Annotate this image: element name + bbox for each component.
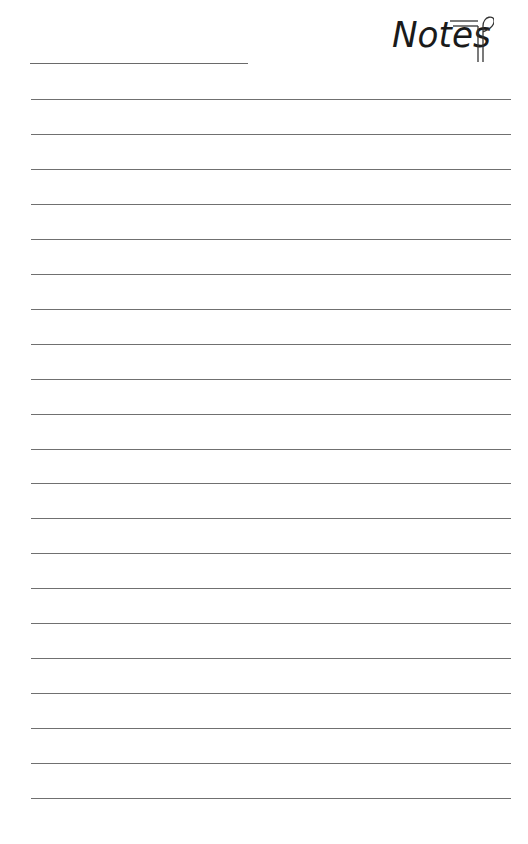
writing-line[interactable]: [31, 204, 511, 205]
writing-line[interactable]: [31, 449, 511, 450]
writing-line[interactable]: [31, 414, 511, 415]
writing-line[interactable]: [31, 309, 511, 310]
name-underline[interactable]: [30, 63, 248, 64]
writing-line[interactable]: [31, 728, 511, 729]
writing-line[interactable]: [31, 518, 511, 519]
writing-line[interactable]: [31, 693, 511, 694]
paragraph-mark-icon: [448, 12, 494, 66]
writing-line[interactable]: [31, 553, 511, 554]
writing-line[interactable]: [31, 99, 511, 100]
writing-line[interactable]: [31, 134, 511, 135]
writing-line[interactable]: [31, 169, 511, 170]
writing-line[interactable]: [31, 798, 511, 799]
writing-line[interactable]: [31, 588, 511, 589]
writing-line[interactable]: [31, 763, 511, 764]
writing-line[interactable]: [31, 483, 511, 484]
writing-line[interactable]: [31, 239, 511, 240]
writing-line[interactable]: [31, 344, 511, 345]
writing-line[interactable]: [31, 658, 511, 659]
writing-line[interactable]: [31, 379, 511, 380]
writing-line[interactable]: [31, 623, 511, 624]
writing-line[interactable]: [31, 274, 511, 275]
